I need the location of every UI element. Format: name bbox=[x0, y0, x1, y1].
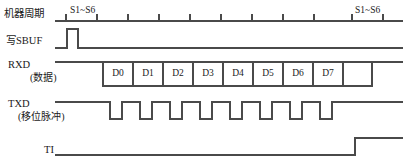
rxd-bit-d5: D5 bbox=[253, 69, 283, 79]
rxd-bit-d0: D0 bbox=[103, 69, 133, 79]
rxd-bit-d3: D3 bbox=[193, 69, 223, 79]
row-label-write-sbuf: 写SBUF bbox=[6, 36, 42, 47]
timing-waveform-canvas bbox=[0, 0, 407, 161]
rxd-idle-cell bbox=[343, 62, 372, 86]
rxd-bit-d1: D1 bbox=[133, 69, 163, 79]
ti-waveform bbox=[55, 138, 403, 155]
rxd-bit-d4: D4 bbox=[223, 69, 253, 79]
rxd-bit-d2: D2 bbox=[163, 69, 193, 79]
serial-port-mode0-timing-diagram: 机器周期 写SBUF RXD (数据) TXD (移位脉冲) TI S1~S6 … bbox=[0, 0, 407, 161]
write-sbuf-waveform bbox=[55, 29, 403, 48]
row-label-txd: TXD bbox=[8, 99, 30, 110]
row-label-ti: TI bbox=[44, 145, 54, 156]
txd-shift-pulse-waveform bbox=[55, 102, 403, 119]
row-sublabel-txd-shift-pulse: (移位脉冲) bbox=[18, 112, 65, 122]
phase-marker-left: S1~S6 bbox=[70, 6, 95, 16]
row-label-machine-cycle: 机器周期 bbox=[4, 9, 44, 20]
rxd-bit-d6: D6 bbox=[283, 69, 313, 79]
phase-marker-right: S1~S6 bbox=[355, 6, 380, 16]
rxd-bit-d7: D7 bbox=[313, 69, 343, 79]
row-sublabel-rxd-data: (数据) bbox=[30, 73, 57, 83]
row-label-rxd: RXD bbox=[8, 60, 30, 71]
